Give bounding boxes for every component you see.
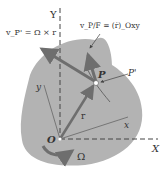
label-x: x	[124, 120, 129, 130]
label-v-omega-cross-r: v_P' = Ω × r	[5, 28, 56, 37]
label-O: O	[47, 134, 56, 145]
label-Y: Y	[49, 9, 57, 20]
rigid-body	[21, 38, 142, 166]
label-Omega: Ω	[77, 151, 85, 162]
label-v-relative: v_P/F = (ṙ)_Oxy	[79, 21, 140, 30]
point-P	[94, 81, 99, 86]
label-X: X	[151, 143, 160, 154]
label-y: y	[35, 82, 42, 92]
label-r: r	[81, 111, 86, 121]
kinematics-diagram: Y X y x O P P' r Ω v_P' = Ω × r v_P/F = …	[0, 0, 168, 174]
label-P-prime: P'	[127, 68, 137, 78]
origin-point	[58, 137, 61, 140]
label-P: P	[97, 69, 106, 80]
